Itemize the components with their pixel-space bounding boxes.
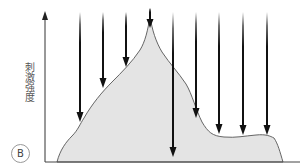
y-axis-label: 刺激强度 xyxy=(20,62,34,102)
arrowhead-icon xyxy=(100,78,107,88)
stimulus-arrow xyxy=(216,12,223,134)
stimulus-arrow xyxy=(240,12,247,135)
stimulus-arrow xyxy=(100,12,107,88)
y-axis-arrowhead xyxy=(42,11,48,20)
stimulus-diagram xyxy=(0,0,305,167)
arrowhead-icon xyxy=(240,125,247,135)
stimulus-arrow xyxy=(77,12,84,122)
arrowhead-icon xyxy=(216,124,223,134)
arrowhead-icon xyxy=(264,125,271,135)
intensity-curve xyxy=(57,16,283,162)
panel-label-badge: B xyxy=(11,144,30,163)
stimulus-arrow xyxy=(147,8,154,28)
stimulus-arrow xyxy=(264,12,271,135)
stimulus-arrow xyxy=(123,12,130,67)
